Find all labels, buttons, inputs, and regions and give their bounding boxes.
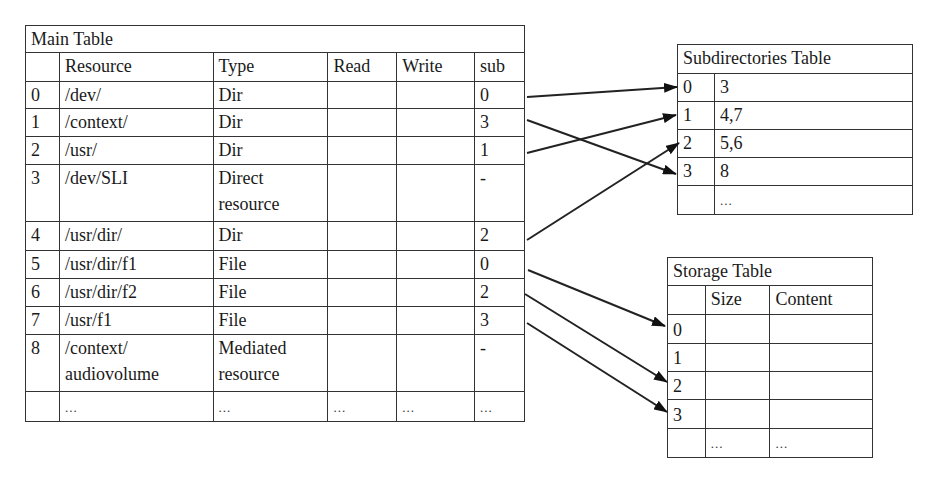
pointer-arrows	[0, 0, 939, 480]
arrow-main0-to-subdir0	[527, 87, 677, 97]
arrow-main6-to-storage2	[525, 294, 667, 382]
arrow-main5-to-storage0	[528, 270, 665, 326]
arrow-main4-to-subdir2	[527, 143, 679, 240]
arrow-main7-to-storage3	[527, 323, 667, 412]
